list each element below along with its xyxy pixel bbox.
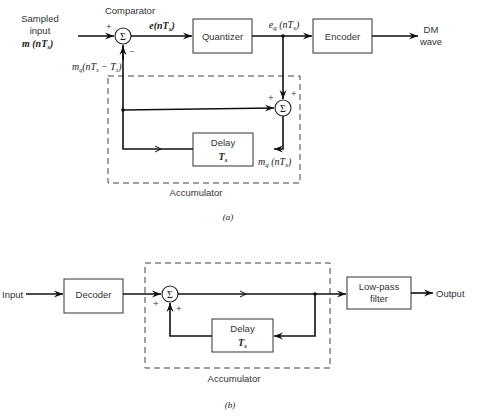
lpf-label-line1: Low-pass bbox=[359, 281, 400, 292]
sum-plus-bottom-b: + bbox=[176, 303, 182, 314]
loop-junction bbox=[121, 108, 125, 112]
delay-label-b: Delay bbox=[230, 323, 255, 334]
output-label-line1: DM bbox=[424, 24, 439, 35]
input-signal-label: m (nTs) bbox=[22, 38, 53, 51]
feedback-signal-label: mq(nTs − Ts) bbox=[72, 61, 122, 73]
accum-output-signal-label: mq (nTs) bbox=[258, 156, 292, 169]
quantized-signal-label: eq (nTs) bbox=[269, 19, 300, 32]
branch-to-delay-wire-b bbox=[274, 294, 315, 336]
comparator-plus: + bbox=[106, 21, 112, 32]
accum-plus-right: + bbox=[291, 88, 297, 99]
accum-loop-wire bbox=[123, 108, 274, 110]
comparator-label: Comparator bbox=[105, 5, 155, 16]
sigma-icon: Σ bbox=[280, 103, 286, 114]
input-label-line1: Sampled bbox=[21, 13, 59, 24]
output-label-b: Output bbox=[436, 288, 465, 299]
delay-label-a: Delay bbox=[211, 137, 236, 148]
comparator-minus: − bbox=[129, 46, 135, 57]
input-label-line2: input bbox=[30, 25, 51, 36]
diagram-b-receiver: Input Decoder Σ + + Delay Ts Low-pass fi… bbox=[2, 263, 465, 410]
output-label-line2: wave bbox=[419, 36, 442, 47]
accum-to-delay-wire bbox=[274, 116, 283, 149]
decoder-label: Decoder bbox=[76, 289, 112, 300]
sum-plus-left-b: + bbox=[153, 298, 159, 309]
caption-b: (b) bbox=[225, 400, 236, 410]
accumulator-label-a: Accumulator bbox=[170, 187, 223, 198]
delta-modulation-diagram: Sampled input m (nTs) Comparator + − Σ e… bbox=[0, 0, 483, 420]
input-label-b: Input bbox=[2, 289, 23, 300]
quantizer-label: Quantizer bbox=[202, 31, 243, 42]
feedback-wire bbox=[123, 45, 193, 149]
sigma-icon: Σ bbox=[167, 289, 173, 300]
caption-a: (a) bbox=[223, 212, 234, 222]
error-signal-label: e(nTs) bbox=[149, 20, 175, 33]
sigma-icon: Σ bbox=[120, 31, 126, 42]
encoder-label: Encoder bbox=[325, 31, 360, 42]
accum-plus-left: + bbox=[268, 92, 274, 103]
lpf-label-line2: filter bbox=[370, 293, 388, 304]
diagram-a-transmitter: Sampled input m (nTs) Comparator + − Σ e… bbox=[21, 5, 442, 222]
accumulator-label-b: Accumulator bbox=[208, 373, 261, 384]
